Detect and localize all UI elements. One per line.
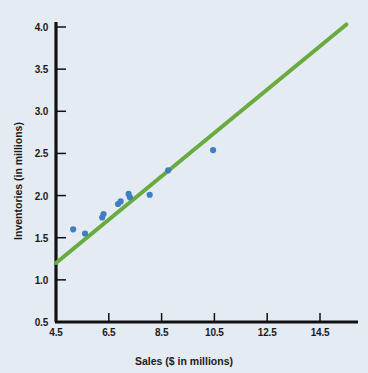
- regression-line: [56, 24, 346, 263]
- y-tick-label: 3.5: [14, 64, 48, 75]
- data-point-marker: [165, 167, 171, 173]
- data-point-marker: [210, 147, 216, 153]
- data-point-marker: [82, 230, 88, 236]
- x-tick-label: 8.5: [155, 327, 168, 338]
- scatter-plot-figure: 0.51.01.52.02.53.03.54.04.56.58.510.512.…: [0, 0, 368, 373]
- y-tick-label: 4.0: [14, 22, 48, 33]
- x-tick-label: 4.5: [49, 327, 62, 338]
- x-axis-title: Sales ($ in millions): [0, 355, 368, 367]
- x-tick-label: 12.5: [258, 327, 277, 338]
- x-axis-ticks: [109, 313, 320, 321]
- regression-line-segment: [56, 24, 346, 263]
- x-tick-label: 10.5: [205, 327, 224, 338]
- axis-lines: [55, 22, 358, 322]
- data-point-marker: [147, 192, 153, 198]
- y-tick-label: 1.0: [14, 274, 48, 285]
- y-axis-title: Inventories (in millions): [12, 106, 24, 256]
- plot-canvas: [0, 0, 368, 373]
- data-point-marker: [118, 198, 124, 204]
- x-tick-label: 14.5: [311, 327, 330, 338]
- data-point-marker: [70, 226, 76, 232]
- y-axis-ticks: [57, 27, 66, 280]
- x-tick-label: 6.5: [102, 327, 115, 338]
- data-point-marker: [127, 194, 133, 200]
- y-tick-label: 0.5: [14, 317, 48, 328]
- data-point-marker: [100, 211, 106, 217]
